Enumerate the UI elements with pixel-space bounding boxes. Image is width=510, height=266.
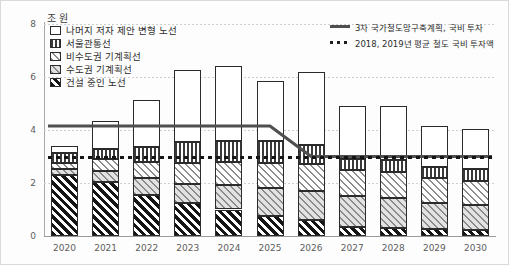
bar-segment	[380, 172, 407, 198]
bar-segment	[462, 181, 489, 205]
stacked-bar-chart: 조 원 02468 202020212022202320242025202620…	[0, 0, 510, 266]
bar-segment	[421, 203, 448, 230]
bar-segment	[421, 126, 448, 167]
bar-segment	[462, 129, 489, 170]
bar-segment	[298, 191, 325, 220]
bar-segment	[51, 169, 78, 175]
bar-2023[interactable]	[174, 24, 201, 236]
legend-item-2[interactable]: 서울관통선	[50, 37, 177, 49]
y-axis-tick-label: 4	[0, 125, 36, 135]
bar-segment	[133, 162, 160, 178]
bar-segment	[380, 160, 407, 172]
x-axis-tick-label: 2030	[455, 243, 495, 253]
legend-line-label: 3차 국가철도망구축계획, 국비 투자	[355, 21, 483, 33]
legend-item-label: 비수도권 기계획선	[66, 49, 141, 63]
bar-segment	[257, 141, 284, 163]
bar-segment	[174, 163, 201, 184]
bar-segment	[51, 175, 78, 236]
solid-line-icon	[330, 25, 350, 28]
x-axis-tick-label: 2020	[45, 243, 85, 253]
bar-segment	[92, 121, 119, 149]
bar-segment	[174, 203, 201, 236]
x-axis-tick-label: 2029	[414, 243, 454, 253]
bar-segment	[215, 141, 242, 162]
legend-series: 나머지 저자 제안 변형 노선서울관통선비수도권 기계획선수도권 기계획선건설 …	[50, 24, 177, 89]
bar-segment	[380, 106, 407, 160]
legend-line-item-1[interactable]: 3차 국가철도망구축계획, 국비 투자	[330, 20, 494, 33]
bar-segment	[174, 142, 201, 163]
bar-segment	[462, 205, 489, 230]
bar-segment	[298, 220, 325, 236]
legend-swatch-icon	[50, 52, 61, 61]
legend-swatch-icon	[50, 39, 61, 48]
x-axis-tick-label: 2025	[250, 243, 290, 253]
x-axis-tick-label: 2022	[127, 243, 167, 253]
legend-swatch-icon	[50, 78, 61, 87]
bar-segment	[462, 169, 489, 181]
bar-segment	[421, 178, 448, 202]
x-axis-tick-label: 2021	[86, 243, 126, 253]
bar-segment	[133, 147, 160, 162]
x-axis-line	[44, 236, 496, 237]
bar-segment	[215, 162, 242, 185]
bar-segment	[51, 163, 78, 170]
x-axis-tick-label: 2023	[168, 243, 208, 253]
legend-item-label: 서울관통선	[66, 36, 111, 50]
legend-item-3[interactable]: 비수도권 기계획선	[50, 50, 177, 62]
bar-segment	[462, 230, 489, 236]
bar-segment	[380, 198, 407, 228]
bar-segment	[339, 159, 366, 170]
bar-2025[interactable]	[257, 24, 284, 236]
bar-2028[interactable]	[380, 24, 407, 236]
bar-segment	[257, 216, 284, 236]
bar-segment	[298, 164, 325, 191]
bar-segment	[339, 170, 366, 197]
bar-segment	[298, 72, 325, 146]
bar-segment	[51, 153, 78, 163]
dotted-line-icon	[330, 41, 350, 44]
bar-segment	[215, 210, 242, 237]
legend-swatch-icon	[50, 65, 61, 74]
y-axis-tick-label: 8	[0, 19, 36, 29]
y-axis-tick-label: 2	[0, 178, 36, 188]
legend-swatch-icon	[50, 26, 61, 35]
y-axis-tick-label: 6	[0, 72, 36, 82]
x-axis-tick-label: 2027	[332, 243, 372, 253]
bar-segment	[92, 149, 119, 159]
legend-item-1[interactable]: 나머지 저자 제안 변형 노선	[50, 24, 177, 36]
bar-segment	[421, 229, 448, 236]
legend-item-label: 나머지 저자 제안 변형 노선	[66, 23, 177, 37]
bar-2026[interactable]	[298, 24, 325, 236]
bar-segment	[133, 100, 160, 147]
bar-segment	[92, 182, 119, 236]
legend-item-4[interactable]: 수도권 기계획선	[50, 63, 177, 75]
bar-segment	[257, 81, 284, 141]
bar-segment	[133, 178, 160, 194]
bar-segment	[257, 188, 284, 216]
bar-segment	[215, 66, 242, 141]
bar-segment	[174, 184, 201, 203]
bar-segment	[298, 145, 325, 164]
bar-segment	[257, 163, 284, 188]
bar-2029[interactable]	[421, 24, 448, 236]
bar-segment	[339, 106, 366, 158]
bar-segment	[51, 146, 78, 153]
bar-segment	[92, 159, 119, 171]
x-axis-tick-label: 2024	[209, 243, 249, 253]
bar-segment	[380, 228, 407, 236]
bar-2030[interactable]	[462, 24, 489, 236]
bar-segment	[421, 167, 448, 178]
x-axis-tick-label: 2026	[291, 243, 331, 253]
legend-item-label: 건설 중인 노선	[66, 75, 126, 89]
legend-item-5[interactable]: 건설 중인 노선	[50, 76, 177, 88]
legend-item-label: 수도권 기계획선	[66, 62, 132, 76]
y-axis-unit-label: 조 원	[47, 10, 68, 25]
bar-segment	[339, 227, 366, 236]
bar-segment	[215, 185, 242, 209]
bar-2024[interactable]	[215, 24, 242, 236]
bar-segment	[92, 171, 119, 182]
y-axis-tick-label: 0	[0, 231, 36, 241]
legend-line-item-2[interactable]: 2018, 2019년 평균 철도 국비 투자액	[330, 36, 494, 49]
bar-2027[interactable]	[339, 24, 366, 236]
bar-segment	[133, 195, 160, 236]
